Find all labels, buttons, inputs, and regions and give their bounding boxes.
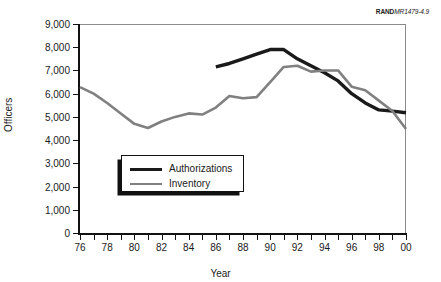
x-axis-tick [352,233,353,240]
x-axis-tick [365,233,366,240]
x-axis-tick [121,233,122,240]
x-axis-tick [284,233,285,240]
x-axis-tick [94,233,95,240]
x-axis-tick [216,233,217,240]
x-axis-tick-label: 76 [74,242,85,253]
x-axis-tick [80,233,81,240]
x-axis-tick [379,233,380,240]
rand-report-number: MR1479-4.9 [394,8,429,15]
y-axis-tick [73,94,80,95]
legend-item-label: Authorizations [169,164,232,174]
x-axis-tick-label: 96 [346,242,357,253]
y-axis-tick-label: 6,000 [45,88,70,99]
x-axis-tick [243,233,244,240]
chart-figure: RANDMR1479-4.9 Officers 9,0008,0007,0006… [0,0,441,282]
x-axis-tick [406,233,407,240]
x-axis-tick-label: 86 [210,242,221,253]
x-axis-tick-label: 82 [156,242,167,253]
y-axis-tick [73,140,80,141]
x-axis-tick [175,233,176,240]
y-axis-tick [73,24,80,25]
legend-item-inventory: Inventory [130,177,210,191]
x-axis-tick-label: 90 [265,242,276,253]
y-axis-tick [73,187,80,188]
x-axis-tick-label: 00 [400,242,411,253]
x-axis-tick [325,233,326,240]
x-axis-tick [202,233,203,240]
x-axis-tick [338,233,339,240]
x-axis-tick-label: 78 [102,242,113,253]
x-axis-tick [257,233,258,240]
y-axis-tick-label: 0 [64,228,70,239]
x-axis-tick [311,233,312,240]
series-layer [80,24,406,233]
y-axis-tick-label: 5,000 [45,111,70,122]
legend-item-label: Inventory [169,179,210,189]
y-axis-tick-label: 4,000 [45,135,70,146]
y-axis-tick [73,47,80,48]
x-axis-tick-label: 98 [373,242,384,253]
y-axis-tick [73,117,80,118]
x-axis-tick-label: 92 [292,242,303,253]
chart-legend: AuthorizationsInventory [121,155,244,192]
legend-swatch-icon [130,168,162,171]
y-axis-tick [73,210,80,211]
x-axis-tick-label: 84 [183,242,194,253]
legend-item-authorizations: Authorizations [130,162,232,176]
x-axis-tick [392,233,393,240]
y-axis-tick-label: 9,000 [45,19,70,30]
y-axis-tick-label: 3,000 [45,158,70,169]
y-axis-tick-label: 2,000 [45,181,70,192]
y-axis-tick-label: 7,000 [45,65,70,76]
x-axis-tick [189,233,190,240]
x-axis-tick-label: 80 [129,242,140,253]
x-axis-tick [297,233,298,240]
x-axis-tick-label: 94 [319,242,330,253]
x-axis-tick [134,233,135,240]
plot-area: 9,0008,0007,0006,0005,0004,0003,0002,000… [78,24,406,235]
y-axis-tick [73,163,80,164]
rand-source-credit: RANDMR1479-4.9 [376,8,429,15]
x-axis-tick [107,233,108,240]
x-axis-tick [148,233,149,240]
rand-logo-text: RAND [376,8,394,15]
x-axis-tick [270,233,271,240]
y-axis-tick [73,70,80,71]
x-axis-title: Year [0,268,441,279]
y-axis-title: Officers [3,98,14,132]
legend-swatch-icon [130,183,162,185]
x-axis-tick [162,233,163,240]
series-line-authorizations [216,50,406,113]
x-axis-tick-label: 88 [237,242,248,253]
x-axis: 76788082848688909294969800 [80,233,406,259]
x-axis-tick [229,233,230,240]
y-axis-tick-label: 1,000 [45,204,70,215]
y-axis-tick-label: 8,000 [45,42,70,53]
y-axis-tick [73,233,80,234]
